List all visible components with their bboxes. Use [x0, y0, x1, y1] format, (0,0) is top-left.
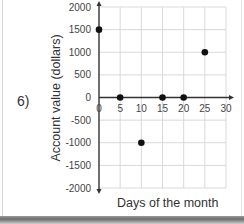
data-point	[202, 49, 209, 56]
data-point	[96, 26, 103, 33]
data-point	[159, 94, 166, 101]
data-point	[117, 94, 124, 101]
y-tick-label: -500	[71, 115, 91, 126]
x-axis-arrow-icon	[229, 95, 234, 100]
y-axis-arrow-up-icon	[97, 1, 102, 6]
x-tick-label: 10	[136, 103, 148, 114]
y-tick-label: 1500	[69, 24, 92, 35]
y-tick-label: -1500	[65, 160, 91, 171]
y-tick-label: 2000	[69, 2, 92, 13]
x-tick-label: 5	[117, 103, 123, 114]
data-point	[138, 139, 145, 146]
y-tick-label: -1000	[65, 137, 91, 148]
x-tick-label: 20	[178, 103, 190, 114]
y-tick-label: 1000	[69, 47, 92, 58]
x-tick-label: 30	[220, 103, 232, 114]
x-tick-label: 15	[157, 103, 169, 114]
y-tick-label: -2000	[65, 183, 91, 194]
y-tick-label: 0	[85, 92, 91, 103]
y-axis-arrow-down-icon	[97, 189, 102, 194]
data-point	[180, 94, 187, 101]
y-tick-label: 500	[74, 69, 91, 80]
x-tick-label: 25	[199, 103, 211, 114]
x-tick-label: 0	[96, 103, 102, 114]
scatter-plot: 2000150010005000-500-1000-1500-200005101…	[0, 0, 244, 224]
